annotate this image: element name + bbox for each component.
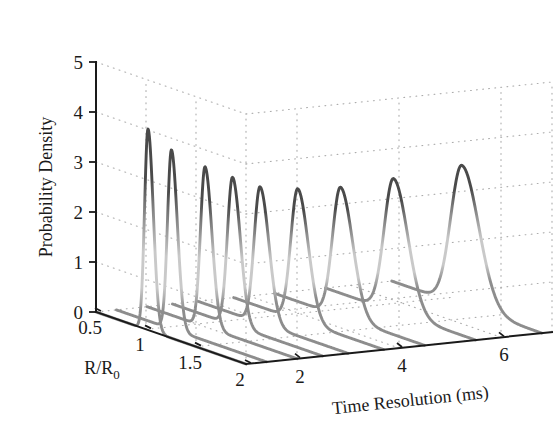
x-tick-label: 1.5 <box>178 352 202 373</box>
y-tick-label: 4 <box>74 102 84 123</box>
y-axis-title: Probability Density <box>36 117 56 258</box>
z-tick-label: 6 <box>499 344 509 365</box>
grid-line-leftwall-horizontal <box>96 162 246 214</box>
density-curves-layer <box>96 129 542 364</box>
density-curve <box>392 165 542 333</box>
grid-layer <box>96 62 552 364</box>
axis-labels-layer: 012345Probability Density0.511.52R/R0246… <box>36 52 509 419</box>
x-tick-label: 1 <box>135 334 145 355</box>
waterfall-3d-chart: 012345Probability Density0.511.52R/R0246… <box>0 0 560 442</box>
z-axis-title: Time Resolution (ms) <box>331 382 490 419</box>
grid-line-leftwall-horizontal <box>96 62 246 114</box>
density-curve <box>198 187 348 354</box>
y-tick-label: 1 <box>74 252 84 273</box>
z-tick-label: 4 <box>397 355 407 376</box>
grid-line-leftwall-horizontal <box>96 212 246 264</box>
x-axis-line <box>96 312 246 364</box>
z-axis-tick <box>499 332 504 336</box>
x-tick-label: 2 <box>235 369 245 390</box>
density-curve <box>173 177 323 356</box>
figure-container: 012345Probability Density0.511.52R/R0246… <box>0 0 560 442</box>
x-axis-title: R/R0 <box>84 358 120 382</box>
x-tick-label: 0.5 <box>78 317 102 338</box>
density-curve <box>116 150 266 362</box>
x-axis-tick <box>145 325 151 328</box>
y-tick-label: 3 <box>74 152 84 173</box>
y-tick-label: 2 <box>74 202 84 223</box>
z-tick-label: 2 <box>295 366 305 387</box>
y-tick-label: 5 <box>74 52 84 73</box>
z-axis-tick <box>397 343 402 347</box>
